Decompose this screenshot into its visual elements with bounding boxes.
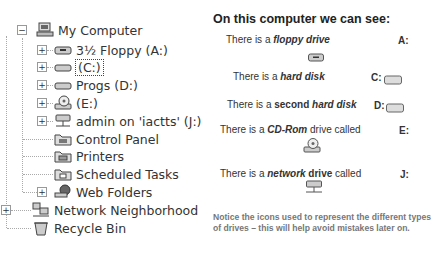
tree-item-scheduled-tasks[interactable]: Scheduled Tasks xyxy=(54,165,179,183)
cdrom-drive-icon xyxy=(303,137,321,158)
info-panel: On this computer we can see: There is a … xyxy=(213,0,435,260)
expand-button[interactable]: + xyxy=(37,116,47,126)
info-line-cdrom: There is a CD-Rom drive called xyxy=(220,124,361,135)
tree-connector xyxy=(47,103,53,104)
info-line-second-hard-disk: There is a second hard disk xyxy=(227,99,357,110)
info-line-floppy: There is a floppy drive xyxy=(226,34,330,45)
tree-item-drive-c[interactable]: (C:) xyxy=(54,58,103,76)
tree-item-network-drive-j[interactable]: admin on 'iactts' (J:) xyxy=(54,112,202,130)
tree-connector xyxy=(47,50,53,51)
recycle-bin-icon xyxy=(32,220,50,236)
expand-button[interactable]: + xyxy=(37,187,47,197)
tree-connector xyxy=(11,210,31,211)
tree-connector xyxy=(23,174,53,175)
drive-letter-e: E: xyxy=(399,125,409,136)
tree-item-control-panel[interactable]: Control Panel xyxy=(54,130,159,148)
expand-button[interactable]: + xyxy=(37,80,47,90)
tree-item-floppy-a[interactable]: 3½ Floppy (A:) xyxy=(54,41,168,59)
expand-button[interactable]: + xyxy=(1,205,11,215)
scheduled-tasks-icon xyxy=(54,166,72,182)
hard-disk-icon xyxy=(54,77,72,93)
tree-connector xyxy=(23,192,37,193)
note-text: Notice the icons used to represent the d… xyxy=(213,212,431,234)
info-line-network-drive: There is a network drive called xyxy=(220,168,361,179)
tree-connector xyxy=(23,156,53,157)
drive-letter-d: D: xyxy=(374,100,385,111)
control-panel-icon xyxy=(54,131,72,147)
tree-connector xyxy=(23,139,53,140)
floppy-drive-icon xyxy=(54,42,72,58)
hard-disk-icon xyxy=(54,59,72,75)
collapse-button[interactable]: − xyxy=(17,25,27,35)
network-drive-icon xyxy=(305,180,323,200)
tree-item-drive-e[interactable]: (E:) xyxy=(54,94,98,112)
tree-item-network-neighborhood[interactable]: Network Neighborhood xyxy=(32,201,198,219)
tree-item-my-computer[interactable]: My Computer xyxy=(36,21,142,39)
drive-letter-j: J: xyxy=(400,169,409,180)
network-neighborhood-icon xyxy=(32,202,50,218)
network-drive-icon xyxy=(54,113,72,129)
tree-connector xyxy=(47,121,53,122)
tree-connector xyxy=(47,67,53,68)
tree-connector xyxy=(22,112,23,192)
tree-item-web-folders[interactable]: Web Folders xyxy=(54,183,152,201)
tree-connector xyxy=(22,38,23,112)
web-folders-icon xyxy=(54,184,72,200)
drive-letter-a: A: xyxy=(398,35,409,46)
tree-item-recycle-bin[interactable]: Recycle Bin xyxy=(32,219,126,237)
expand-button[interactable]: + xyxy=(37,62,47,72)
drive-letter-c: C: xyxy=(371,72,382,83)
expand-button[interactable]: + xyxy=(37,98,47,108)
tree-connector xyxy=(7,228,31,229)
cdrom-drive-icon xyxy=(54,95,72,111)
floppy-drive-icon xyxy=(308,48,324,66)
printers-icon xyxy=(54,148,72,164)
tree-item-printers[interactable]: Printers xyxy=(54,147,124,165)
expand-button[interactable]: + xyxy=(37,45,47,55)
info-line-hard-disk: There is a hard disk xyxy=(233,71,325,82)
computer-icon xyxy=(36,22,54,38)
panel-title: On this computer we can see: xyxy=(213,12,390,26)
tree-item-drive-d[interactable]: Progs (D:) xyxy=(54,76,138,94)
folder-tree: − My Computer + 3½ Floppy (A:) + (C:) + … xyxy=(0,0,215,260)
hard-disk-icon xyxy=(384,71,402,89)
tree-connector xyxy=(47,85,53,86)
tree-connector xyxy=(6,36,7,228)
hard-disk-icon xyxy=(386,99,404,117)
